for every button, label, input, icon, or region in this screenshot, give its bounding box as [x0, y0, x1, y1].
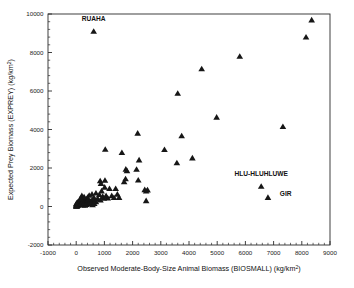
data-point-marker — [136, 157, 143, 163]
data-point-marker — [308, 17, 315, 23]
x-tick-label: 2000 — [126, 249, 140, 256]
y-tick-label: 8000 — [30, 49, 44, 56]
data-point-marker — [265, 194, 272, 200]
y-tick-label: 6000 — [30, 87, 44, 94]
tick-marks — [48, 14, 330, 245]
x-tick-label: 6000 — [239, 249, 253, 256]
x-tick-label: 8000 — [295, 249, 309, 256]
data-point-marker — [114, 191, 121, 197]
scatter-plot-figure: -100001000200030004000500060007000800090… — [0, 0, 354, 288]
y-tick-label: 4000 — [30, 126, 44, 133]
y-tick-label: 0 — [40, 203, 44, 210]
x-tick-label: 5000 — [210, 249, 224, 256]
data-point-marker — [161, 146, 168, 152]
plot-canvas: -100001000200030004000500060007000800090… — [0, 0, 354, 288]
data-point-marker — [303, 34, 310, 40]
y-tick-label: 2000 — [30, 164, 44, 171]
x-tick-label: 0 — [74, 249, 78, 256]
x-axis-title: Observed Moderate-Body-Size Animal Bioma… — [77, 264, 300, 273]
tick-labels: -100001000200030004000500060007000800090… — [26, 10, 337, 255]
y-tick-label: 10000 — [26, 10, 44, 17]
plot-frame — [48, 14, 330, 245]
axes — [48, 14, 330, 245]
data-point-marker — [258, 183, 265, 189]
annotation-label: RUAHA — [82, 15, 106, 22]
data-point-marker — [134, 130, 141, 136]
x-tick-label: -1000 — [40, 249, 56, 256]
data-point-marker — [178, 133, 185, 139]
data-point-marker — [102, 146, 109, 152]
annotation-label: HLU-HLUHLUWE — [234, 170, 288, 177]
data-point-marker — [213, 114, 220, 120]
data-point-marker — [143, 198, 150, 204]
data-point-marker — [280, 123, 287, 129]
data-point-marker — [198, 66, 205, 72]
y-axis-title: Expected Prey Biomass (EXPREY) (kg/km2) — [6, 59, 15, 200]
data-point-marker — [119, 149, 126, 155]
data-point-marker — [174, 90, 181, 96]
x-tick-label: 7000 — [267, 249, 281, 256]
x-tick-label: 1000 — [98, 249, 112, 256]
data-point-marker — [90, 28, 97, 34]
x-tick-label: 4000 — [182, 249, 196, 256]
x-tick-label: 9000 — [323, 249, 337, 256]
data-points — [73, 17, 315, 209]
annotation-label: GIR — [280, 190, 292, 197]
data-point-marker — [236, 53, 243, 59]
data-point-marker — [174, 160, 181, 166]
data-point-marker — [112, 185, 119, 191]
data-point-marker — [106, 185, 113, 191]
data-point-marker — [135, 177, 142, 183]
x-tick-label: 3000 — [154, 249, 168, 256]
data-point-marker — [133, 166, 140, 172]
y-tick-label: -2000 — [28, 241, 44, 248]
data-point-marker — [102, 177, 109, 183]
point-annotations: RUAHAHLU-HLUHLUWEGIR — [82, 15, 292, 197]
data-point-marker — [189, 155, 196, 161]
